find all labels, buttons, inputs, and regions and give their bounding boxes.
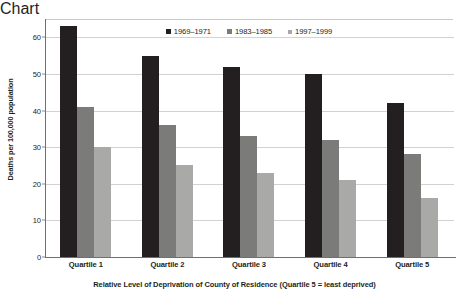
x-tick-label-quartile-1: Quartile 1 <box>45 260 127 269</box>
bar-group-quartile-4 <box>290 19 372 257</box>
legend-label-1997-1999: 1997–1999 <box>295 27 332 36</box>
bar-group-quartile-3 <box>208 19 290 257</box>
x-axis-line <box>45 257 456 258</box>
bar-1997-1999-quartile-4 <box>339 180 356 257</box>
x-tick-label-quartile-4: Quartile 4 <box>290 260 372 269</box>
bar-1997-1999-quartile-3 <box>257 173 274 257</box>
bar-1983-1985-quartile-5 <box>404 154 421 257</box>
x-axis-tick-labels: Quartile 1 Quartile 2 Quartile 3 Quartil… <box>45 260 453 269</box>
y-tick-label: 30 <box>33 143 41 152</box>
y-axis-title-text: Deaths per 100,000 population <box>7 78 16 180</box>
legend-swatch-dark-icon <box>166 29 171 34</box>
bars-layer <box>45 19 453 257</box>
y-tick-label: 40 <box>33 106 41 115</box>
bar-1969-1971-quartile-2 <box>142 56 159 257</box>
y-tick-label: 50 <box>33 69 41 78</box>
bar-1969-1971-quartile-4 <box>305 74 322 257</box>
x-tick-label-quartile-5: Quartile 5 <box>371 260 453 269</box>
legend-item-1997-1999: 1997–1999 <box>288 27 332 36</box>
bar-chart-figure: Deaths per 100,000 population 60 50 40 3… <box>0 0 469 303</box>
bar-group-quartile-1 <box>45 19 127 257</box>
bar-1983-1985-quartile-2 <box>159 125 176 257</box>
legend-label-1969-1971: 1969–1971 <box>174 27 211 36</box>
bar-1997-1999-quartile-2 <box>176 165 193 257</box>
bar-group-quartile-5 <box>371 19 453 257</box>
x-tick-label-quartile-2: Quartile 2 <box>127 260 209 269</box>
legend-swatch-light-icon <box>288 30 292 34</box>
y-axis-title: Deaths per 100,000 population <box>0 0 22 258</box>
y-axis-tick-labels: 60 50 40 30 20 10 0 <box>22 19 45 257</box>
y-tick-label: 0 <box>37 253 41 262</box>
legend-swatch-medium-icon <box>227 29 232 34</box>
y-tick-label: 20 <box>33 179 41 188</box>
chart-legend: 1969–1971 1983–1985 1997–1999 <box>45 27 453 36</box>
legend-label-1983-1985: 1983–1985 <box>235 27 272 36</box>
legend-item-1983-1985: 1983–1985 <box>227 27 272 36</box>
y-tick-label: 10 <box>33 216 41 225</box>
y-tick-label: 60 <box>33 33 41 42</box>
bar-1997-1999-quartile-1 <box>94 147 111 257</box>
bar-1969-1971-quartile-1 <box>60 26 77 257</box>
x-tick-label-quartile-3: Quartile 3 <box>208 260 290 269</box>
bar-1969-1971-quartile-5 <box>387 103 404 257</box>
legend-item-1969-1971: 1969–1971 <box>166 27 211 36</box>
bar-1983-1985-quartile-1 <box>77 107 94 257</box>
x-axis-title: Relative Level of Deprivation of County … <box>0 280 469 289</box>
bar-group-quartile-2 <box>127 19 209 257</box>
bar-1969-1971-quartile-3 <box>223 67 240 257</box>
bar-1983-1985-quartile-3 <box>240 136 257 257</box>
bar-1983-1985-quartile-4 <box>322 140 339 257</box>
bar-1997-1999-quartile-5 <box>421 198 438 257</box>
